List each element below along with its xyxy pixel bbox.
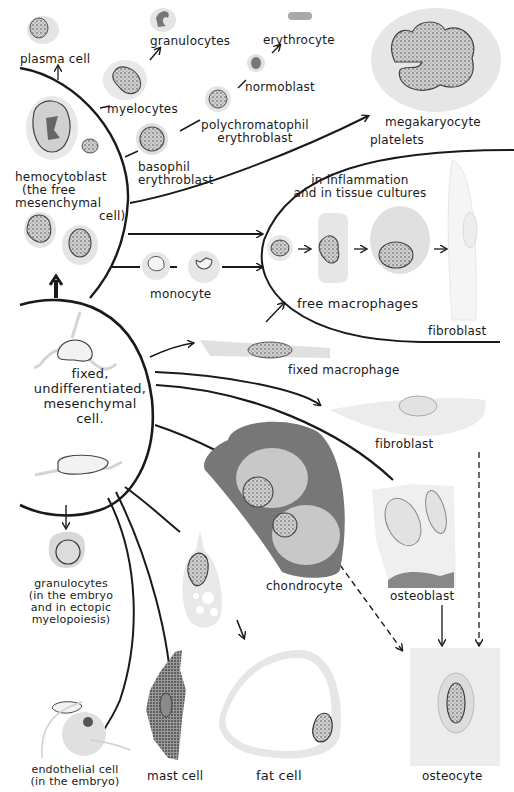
osteoblast-drawing [372, 484, 456, 588]
label-fixed-line1: fixed, [20, 366, 160, 381]
label-platelets: platelets [370, 134, 424, 147]
megakaryocyte-drawing [371, 8, 501, 112]
label-inflammation: in inflammation and in tissue cultures [280, 174, 440, 200]
label-hemocytoblast: hemocytoblast (the free mesenchymal cell… [15, 171, 125, 223]
label-fixed-mesenchymal-cell: fixed, undifferentiated, mesenchymal cel… [20, 366, 160, 426]
label-megakaryocyte: megakaryocyte [385, 116, 481, 129]
label-mast-cell: mast cell [147, 770, 203, 783]
label-myelocytes: myelocytes [107, 103, 178, 116]
label-granulocytes-emb-line4: myelopoiesis) [20, 614, 122, 626]
label-polychromatophil-erythroblast: polychromatophil erythroblast [190, 119, 320, 145]
label-fixed-line2: undifferentiated, [20, 381, 160, 396]
label-granulocytes-embryo: granulocytes (in the embryo and in ectop… [20, 578, 122, 626]
chondrocyte-drawing [204, 422, 345, 578]
monocyte-drawing [142, 251, 220, 283]
label-osteoblast: osteoblast [390, 590, 454, 603]
label-fibroblast: fibroblast [375, 438, 433, 451]
label-basophil-line2: erythroblast [138, 174, 213, 187]
label-plasma-cell: plasma cell [20, 53, 90, 66]
erythrocyte-drawing [288, 12, 312, 20]
label-endothelial-line2: (in the embryo) [20, 776, 130, 788]
polychromatophil-erythroblast-drawing [205, 86, 231, 112]
label-fixed-macrophage: fixed macrophage [288, 364, 400, 377]
label-polychromatophil-line2: erythroblast [190, 132, 320, 145]
label-inflammation-line2: and in tissue cultures [280, 187, 440, 200]
label-erythrocyte: erythrocyte [263, 34, 335, 47]
label-fixed-line3: mesenchymal [20, 396, 160, 411]
label-basophil-erythroblast: basophil erythroblast [138, 161, 213, 187]
label-normoblast: normoblast [245, 81, 315, 94]
granulocyte-embryo-drawing [49, 532, 85, 568]
label-granulocytes: granulocytes [150, 35, 230, 48]
label-monocyte: monocyte [150, 288, 211, 301]
granulocyte-drawing [150, 8, 176, 32]
label-osteocyte: osteocyte [422, 770, 483, 783]
label-hemocytoblast-line4: cell) [15, 210, 125, 223]
normoblast-drawing [247, 54, 265, 72]
fibroblast-drawing [330, 396, 486, 436]
basophil-erythroblast-drawing [136, 123, 168, 155]
label-fixed-line4: cell. [20, 411, 160, 426]
fat-cell-drawing [219, 650, 341, 758]
fibroblast-culture-drawing [448, 160, 477, 320]
endothelial-cell-drawing [42, 702, 130, 758]
mast-cell-drawing [146, 650, 186, 760]
label-free-macrophages: free macrophages [297, 296, 418, 311]
plasma-cell-drawing [27, 16, 59, 44]
early-fat-cell-drawing [183, 530, 223, 628]
free-macrophage-drawings [267, 206, 430, 283]
osteocyte-drawing [410, 648, 500, 766]
label-fat-cell: fat cell [256, 768, 302, 783]
fixed-macrophage-drawing [200, 340, 330, 358]
label-endothelial-cell: endothelial cell (in the embryo) [20, 764, 130, 788]
label-chondrocyte: chondrocyte [266, 580, 343, 593]
myelocyte-drawing [103, 60, 147, 100]
label-fibroblast-culture: fibroblast [428, 325, 486, 338]
